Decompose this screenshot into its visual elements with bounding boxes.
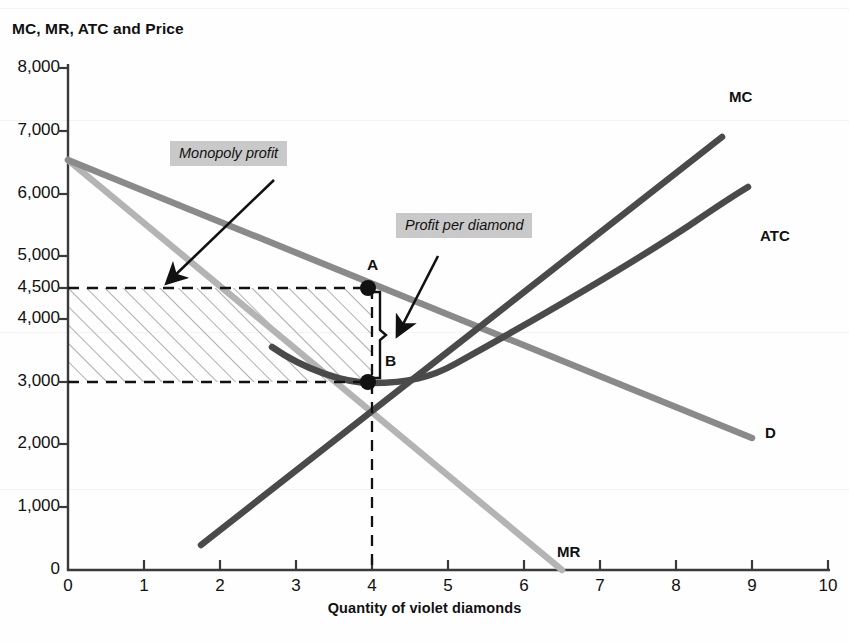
data-point-a: [360, 280, 376, 296]
annotation-monopoly-profit: Monopoly profit: [170, 141, 287, 166]
monopoly-profit-region: [68, 288, 372, 382]
point-label-b: B: [385, 352, 396, 370]
data-point-b: [360, 374, 376, 390]
curve-label-mc: MC: [729, 88, 752, 105]
curve-label-mr: MR: [557, 543, 580, 560]
chart-canvas: MC, MR, ATC and Price Quantity of violet…: [0, 0, 849, 642]
curve-label-d: D: [765, 424, 776, 441]
chart-plot: [0, 0, 849, 642]
monopoly-profit-arrow: [168, 180, 274, 282]
annotation-profit-per-diamond: Profit per diamond: [396, 213, 532, 238]
curve-label-atc: ATC: [760, 227, 790, 244]
point-label-a: A: [367, 256, 378, 274]
